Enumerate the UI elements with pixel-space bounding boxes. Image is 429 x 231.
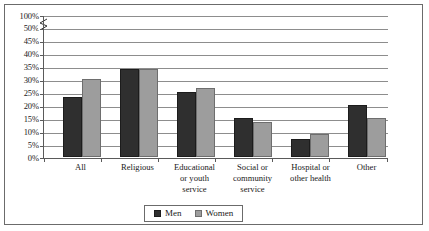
legend-item-women[interactable]: Women bbox=[195, 208, 234, 218]
y-axis-label: 45% bbox=[5, 37, 39, 46]
y-axis-label: 35% bbox=[5, 63, 39, 72]
bar-women[interactable] bbox=[82, 79, 101, 157]
y-tick-mark bbox=[40, 68, 44, 69]
y-tick-mark bbox=[40, 146, 44, 147]
x-axis-label-line: All bbox=[52, 162, 109, 173]
y-axis-label: 10% bbox=[5, 128, 39, 137]
y-axis-label: 25% bbox=[5, 89, 39, 98]
x-axis-label-all: All bbox=[52, 162, 109, 173]
x-axis-label-line: Religious bbox=[109, 162, 166, 173]
x-axis-label-line: service bbox=[164, 184, 225, 195]
y-axis-label: 50% bbox=[5, 24, 39, 33]
y-axis-label: 30% bbox=[5, 76, 39, 85]
x-axis-label-hospital: Hospital or other health bbox=[279, 162, 342, 184]
y-tick-mark bbox=[40, 81, 44, 82]
gridline bbox=[44, 55, 388, 56]
y-tick-mark bbox=[40, 107, 44, 108]
legend-label-women: Women bbox=[206, 208, 234, 218]
y-axis-label: 100% bbox=[5, 12, 39, 21]
x-axis-label-line: Educational bbox=[164, 162, 225, 173]
bar-women[interactable] bbox=[196, 88, 215, 157]
bar-men[interactable] bbox=[234, 118, 253, 157]
legend-label-men: Men bbox=[165, 208, 182, 218]
y-axis-label: 5% bbox=[5, 141, 39, 150]
x-axis-label-line: Other bbox=[338, 162, 395, 173]
y-tick-mark bbox=[40, 120, 44, 121]
x-axis-label-line: other health bbox=[279, 173, 342, 184]
x-axis-label-group: All Religious Educational or youth servi… bbox=[43, 162, 388, 206]
chart-frame: 100% 50% 45% 40% 35% 30% 25% 20% 15% 10%… bbox=[4, 4, 423, 225]
x-axis-label-line: or youth bbox=[164, 173, 225, 184]
y-tick-mark bbox=[40, 55, 44, 56]
men-swatch-icon bbox=[154, 210, 161, 217]
gridline bbox=[44, 29, 388, 30]
x-axis-label-social: Social or community service bbox=[222, 162, 283, 195]
y-tick-mark bbox=[40, 29, 44, 30]
women-swatch-icon bbox=[195, 210, 202, 217]
gridline bbox=[44, 68, 388, 69]
x-axis-label-religious: Religious bbox=[109, 162, 166, 173]
x-axis-label-line: Social or bbox=[222, 162, 283, 173]
y-axis-label-group: 100% 50% 45% 40% 35% 30% 25% 20% 15% 10%… bbox=[5, 16, 39, 159]
x-axis-label-educational: Educational or youth service bbox=[164, 162, 225, 195]
gridline bbox=[44, 16, 388, 17]
gridline bbox=[44, 42, 388, 43]
bar-women[interactable] bbox=[253, 122, 272, 157]
y-axis-label: 40% bbox=[5, 50, 39, 59]
y-axis-label: 20% bbox=[5, 102, 39, 111]
x-axis-label-line: Hospital or bbox=[279, 162, 342, 173]
bar-men[interactable] bbox=[348, 105, 367, 157]
bar-women[interactable] bbox=[139, 69, 158, 157]
bar-men[interactable] bbox=[177, 92, 196, 157]
bar-men[interactable] bbox=[120, 69, 139, 157]
x-axis-label-line: service bbox=[222, 184, 283, 195]
bar-women[interactable] bbox=[367, 118, 386, 157]
bar-women[interactable] bbox=[310, 134, 329, 157]
bar-men[interactable] bbox=[291, 139, 310, 157]
plot-area bbox=[43, 16, 388, 159]
y-tick-mark bbox=[40, 133, 44, 134]
legend-item-men[interactable]: Men bbox=[154, 208, 182, 218]
x-axis-label-line: community bbox=[222, 173, 283, 184]
y-tick-mark bbox=[40, 42, 44, 43]
y-axis-label: 0% bbox=[5, 154, 39, 163]
y-axis-label: 15% bbox=[5, 115, 39, 124]
y-tick-mark bbox=[40, 16, 44, 17]
bar-men[interactable] bbox=[63, 97, 82, 157]
chart-legend: Men Women bbox=[144, 205, 243, 222]
y-tick-mark bbox=[40, 94, 44, 95]
x-axis-label-other: Other bbox=[338, 162, 395, 173]
